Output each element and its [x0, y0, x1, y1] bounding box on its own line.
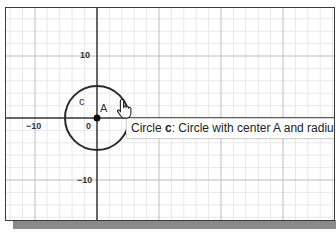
tooltip-description: : Circle with center A and radius [172, 121, 335, 135]
point-a [94, 115, 101, 122]
x-axis-label-neg10: −10 [26, 121, 41, 131]
graphics-view[interactable]: 10 −10 −10 0 c A Circle c: Circle with c… [5, 7, 335, 221]
window-shadow [13, 220, 336, 229]
point-label-a[interactable]: A [100, 102, 107, 114]
y-axis-label-neg10: −10 [77, 175, 92, 185]
object-tooltip: Circle c: Circle with center A and radiu… [126, 118, 335, 139]
y-axis-label-10: 10 [80, 50, 90, 60]
hand-pointer-icon [117, 98, 135, 120]
tooltip-prefix: Circle [131, 121, 165, 135]
circle-label-c[interactable]: c [79, 95, 85, 107]
origin-label: 0 [86, 121, 91, 131]
coordinate-grid[interactable] [6, 8, 334, 220]
tooltip-object-name: c [165, 121, 172, 135]
